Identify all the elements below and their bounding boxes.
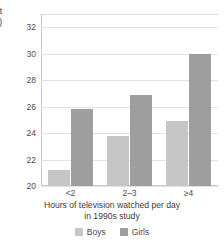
y-axis-tick-label: 32 [27, 22, 36, 32]
x-axis-tick-label: 2–3 [100, 188, 159, 198]
plot-area: 20222426283032 [41, 14, 218, 186]
x-axis-tick-label: ≥4 [159, 188, 218, 198]
y-axis-tick-label: 20 [27, 181, 36, 191]
bar-girls [71, 109, 93, 186]
x-axis-title-line-1: Hours of television watched per day [0, 200, 224, 211]
bar-girls [189, 54, 211, 186]
bar-group [159, 14, 218, 186]
legend-item-boys[interactable]: Boys [75, 227, 106, 237]
bar-chart: at n) 20222426283032 <22–3≥4 Hours of te… [0, 0, 224, 243]
bar-group [100, 14, 159, 186]
y-axis-tick-label: 24 [27, 128, 36, 138]
bar-boys [48, 170, 70, 186]
y-axis-tick-label: 30 [27, 49, 36, 59]
x-axis-tick-label: <2 [41, 188, 100, 198]
gridline [41, 186, 218, 187]
legend-swatch-icon [120, 228, 128, 236]
x-axis-tick-labels: <22–3≥4 [41, 188, 218, 198]
bar-girls [130, 95, 152, 186]
bar-groups [41, 14, 218, 186]
y-axis-tick-label: 28 [27, 75, 36, 85]
y-axis-tick-label: 26 [27, 102, 36, 112]
legend-label: Boys [87, 227, 106, 237]
bar-group [41, 14, 100, 186]
y-axis-title-line-1: at [0, 6, 2, 17]
legend-swatch-icon [75, 228, 83, 236]
x-axis-title-line-2: in 1990s study [0, 211, 224, 222]
y-axis-title-clipped: at n) [0, 6, 2, 28]
legend-item-girls[interactable]: Girls [120, 227, 149, 237]
bar-boys [166, 121, 188, 186]
legend-label: Girls [132, 227, 149, 237]
y-axis-title-line-2: n) [0, 17, 2, 28]
x-axis-title: Hours of television watched per day in 1… [0, 200, 224, 222]
y-axis-tick-label: 22 [27, 155, 36, 165]
chart-legend: BoysGirls [0, 227, 224, 237]
bar-boys [107, 136, 129, 186]
